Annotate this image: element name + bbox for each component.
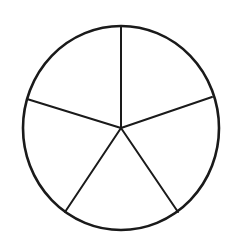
radius-lower-left [65, 128, 121, 212]
sector-right [121, 96, 219, 211]
radius-right [121, 97, 212, 128]
circle-five-sectors-diagram [0, 0, 232, 248]
radius-left [27, 99, 121, 128]
radius-lower-right [121, 128, 178, 212]
figure-canvas [0, 0, 232, 248]
sector-bottom [65, 128, 177, 230]
